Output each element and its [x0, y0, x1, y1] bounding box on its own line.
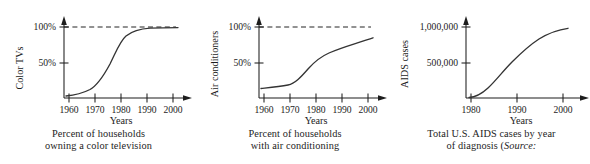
x-tick-label-2000: 2000: [358, 104, 377, 115]
y-axis-title: AIDS cases: [399, 40, 410, 88]
x-tick-label-1990: 1990: [332, 104, 351, 115]
y-tick-label-500000: 500,000: [427, 57, 458, 68]
x-tick-label-1980: 1980: [111, 104, 130, 115]
data-series-aids-cases: [469, 28, 568, 97]
caption-line-2-prefix: of diagnosis (: [447, 140, 504, 151]
chart-panel-air-conditioners: Air conditioners 100% 50% 1960 1970 1980: [197, 0, 393, 164]
y-axis-title: Color TVs: [14, 46, 25, 89]
plot-area-air-conditioners: Air conditioners 100% 50% 1960 1970 1980: [197, 6, 393, 124]
chart-svg-aids-cases: AIDS cases 1,000,000 500,000 1980 1990 2…: [393, 6, 590, 124]
plot-area-aids-cases: AIDS cases 1,000,000 500,000 1980 1990 2…: [393, 6, 590, 124]
y-tick-label-50: 50%: [233, 57, 251, 68]
data-series-air-conditioners: [261, 38, 373, 89]
x-axis-arrowhead: [183, 95, 192, 101]
y-tick-label-100: 100%: [34, 21, 56, 32]
x-tick-label-1970: 1970: [280, 104, 299, 115]
figure-row: Color TVs 100% 50%: [0, 0, 590, 164]
x-tick-label-1960: 1960: [59, 104, 78, 115]
chart-panel-color-tvs: Color TVs 100% 50%: [0, 0, 197, 164]
chart-svg-air-conditioners: Air conditioners 100% 50% 1960 1970 1980: [197, 6, 393, 124]
x-tick-label-1990: 1990: [507, 104, 526, 115]
caption-line-2: with air conditioning: [251, 140, 339, 151]
x-axis-title: Years: [110, 115, 133, 124]
caption-source-label: Source:: [504, 140, 536, 151]
plot-area-color-tvs: Color TVs 100% 50%: [0, 6, 197, 124]
x-axis-arrowhead: [378, 95, 387, 101]
y-axis-arrowhead: [256, 16, 262, 25]
caption-line-1: Percent of households: [248, 128, 341, 139]
y-tick-label-100: 100%: [229, 21, 251, 32]
y-axis-arrowhead: [61, 16, 67, 25]
x-axis-title: Years: [510, 115, 533, 124]
chart-caption-color-tvs: Percent of households owning a color tel…: [0, 128, 197, 153]
chart-caption-air-conditioners: Percent of households with air condition…: [197, 128, 393, 153]
x-tick-label-1990: 1990: [137, 104, 156, 115]
x-tick-label-1980: 1980: [461, 104, 480, 115]
x-tick-label-1960: 1960: [254, 104, 273, 115]
y-tick-label-1000000: 1,000,000: [420, 21, 459, 32]
data-series-color-tvs: [66, 28, 178, 96]
x-tick-label-1980: 1980: [306, 104, 325, 115]
x-tick-label-2000: 2000: [553, 104, 572, 115]
x-tick-label-2000: 2000: [163, 104, 182, 115]
caption-line-1: Total U.S. AIDS cases by year: [427, 128, 555, 139]
y-axis-title: Air conditioners: [209, 31, 220, 98]
chart-panel-aids-cases: AIDS cases 1,000,000 500,000 1980 1990 2…: [393, 0, 590, 164]
chart-caption-aids-cases: Total U.S. AIDS cases by year of diagnos…: [393, 128, 590, 153]
caption-line-2: owning a color television: [45, 140, 152, 151]
x-axis-arrowhead: [580, 95, 589, 101]
caption-line-1: Percent of households: [52, 128, 145, 139]
x-axis-title: Years: [305, 115, 328, 124]
chart-svg-color-tvs: Color TVs 100% 50%: [0, 6, 197, 124]
y-axis-arrowhead: [463, 16, 469, 25]
x-tick-label-1970: 1970: [85, 104, 104, 115]
y-tick-label-50: 50%: [38, 57, 56, 68]
